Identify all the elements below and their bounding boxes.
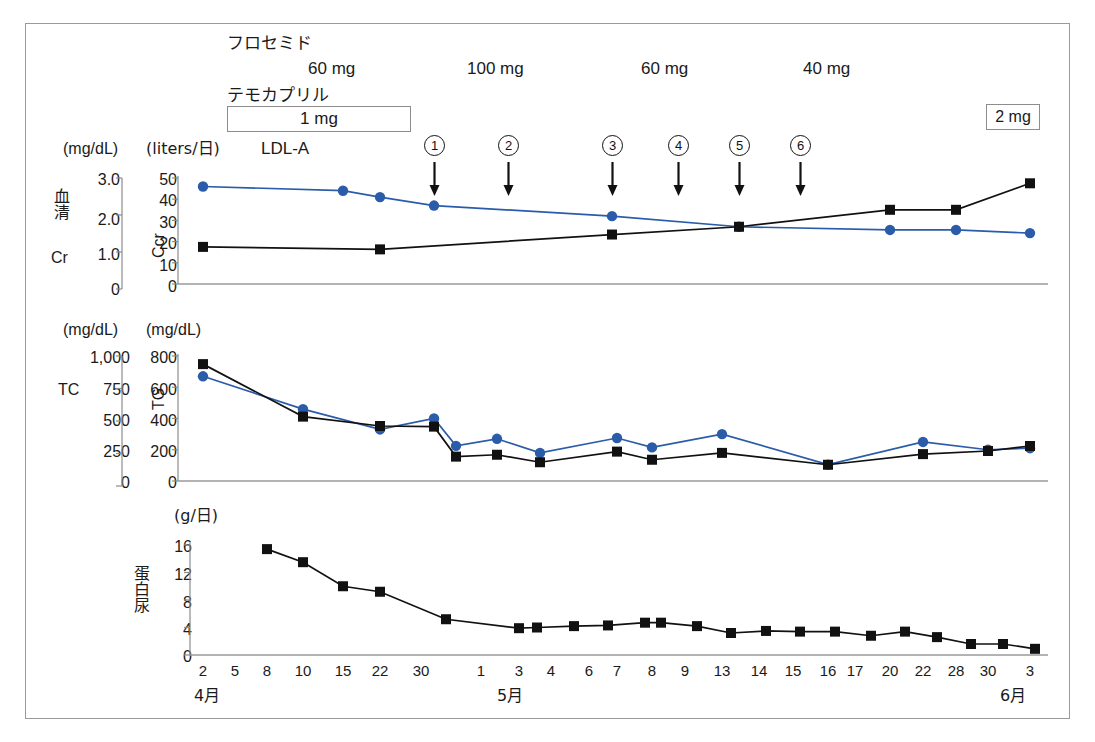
x-axis-tick-16: 15 bbox=[777, 662, 809, 679]
x-axis-tick-21: 28 bbox=[940, 662, 972, 679]
x-axis-tick-1: 5 bbox=[219, 662, 251, 679]
x-axis-tick-11: 7 bbox=[601, 662, 633, 679]
x-axis-tick-20: 22 bbox=[907, 662, 939, 679]
figure-page: フロセミド 60 mg 100 mg 60 mg 40 mg テモカプリル 1 … bbox=[0, 0, 1095, 742]
x-axis-tick-5: 22 bbox=[364, 662, 396, 679]
x-axis-tick-8: 3 bbox=[503, 662, 535, 679]
x-axis-tick-14: 13 bbox=[706, 662, 738, 679]
x-axis-tick-22: 30 bbox=[972, 662, 1004, 679]
x-axis-tick-4: 15 bbox=[327, 662, 359, 679]
x-axis-tick-3: 10 bbox=[287, 662, 319, 679]
x-axis-tick-12: 8 bbox=[636, 662, 668, 679]
x-axis-tick-6: 30 bbox=[405, 662, 437, 679]
x-axis-month-may: 5月 bbox=[497, 688, 523, 704]
x-axis-tick-2: 8 bbox=[251, 662, 283, 679]
x-axis-tick-7: 1 bbox=[465, 662, 497, 679]
x-axis-tick-18: 17 bbox=[839, 662, 871, 679]
panel3-plot bbox=[0, 0, 1095, 742]
x-axis-tick-19: 20 bbox=[874, 662, 906, 679]
x-axis-tick-23: 3 bbox=[1014, 662, 1046, 679]
x-axis-tick-13: 9 bbox=[669, 662, 701, 679]
x-axis-tick-15: 14 bbox=[743, 662, 775, 679]
x-axis-tick-9: 4 bbox=[535, 662, 567, 679]
x-axis-month-april: 4月 bbox=[194, 688, 220, 704]
x-axis-tick-0: 2 bbox=[187, 662, 219, 679]
x-axis-month-june: 6月 bbox=[1000, 688, 1026, 704]
